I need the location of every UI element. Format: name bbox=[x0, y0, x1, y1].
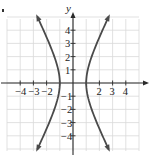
x-tick-label: −4 bbox=[15, 86, 27, 97]
curve-arrow-icon bbox=[36, 144, 41, 151]
axes bbox=[1, 12, 149, 155]
y-tick-label: 1 bbox=[65, 65, 70, 76]
curve-arrow-icon bbox=[104, 144, 109, 151]
y-tick-label: 3 bbox=[65, 38, 70, 49]
y-tick-label: −2 bbox=[61, 104, 72, 115]
y-tick-label: −3 bbox=[61, 118, 72, 129]
y-axis-arrow-icon bbox=[71, 12, 76, 18]
y-tick-label: −4 bbox=[61, 131, 73, 142]
y-tick-label: 2 bbox=[65, 52, 70, 63]
x-tick-label: 4 bbox=[123, 86, 129, 97]
y-tick-label: −1 bbox=[61, 91, 72, 102]
tick-labels: xy−4−3−22344321−1−2−3−4 bbox=[15, 2, 149, 142]
x-axis-arrow-icon bbox=[143, 81, 149, 86]
x-tick-label: −3 bbox=[28, 86, 39, 97]
x-tick-label: −2 bbox=[42, 86, 53, 97]
hyperbola-plot: xy−4−3−22344321−1−2−3−4 bbox=[0, 0, 149, 159]
curve-arrow-icon bbox=[36, 14, 41, 21]
x-tick-label: 3 bbox=[110, 86, 115, 97]
y-tick-label: 4 bbox=[65, 25, 71, 36]
y-axis-label: y bbox=[65, 2, 71, 14]
curve-arrow-icon bbox=[104, 14, 109, 21]
x-tick-label: 2 bbox=[96, 86, 101, 97]
